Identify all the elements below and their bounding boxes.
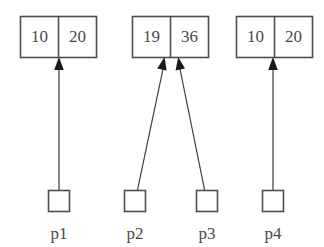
box-1-cell-2-value: 20 bbox=[69, 27, 86, 46]
arrow-p3-head-icon bbox=[176, 57, 185, 71]
pointer-p1-box bbox=[49, 191, 70, 212]
pointer-p2-label: p2 bbox=[127, 224, 144, 243]
arrow-p1-head-icon bbox=[54, 57, 64, 70]
arrow-p3-to-box-2 bbox=[176, 57, 206, 197]
box-3: 10 20 bbox=[237, 17, 313, 58]
box-2: 19 36 bbox=[133, 17, 209, 58]
diagram-canvas: 10 20 19 36 10 20 p1 p2 bbox=[0, 0, 324, 247]
arrow-p1-to-box-1 bbox=[54, 57, 64, 190]
arrow-p4-to-box-3 bbox=[268, 57, 278, 190]
pointer-p2-box bbox=[125, 191, 146, 212]
pointer-p4-label: p4 bbox=[265, 224, 283, 243]
pointer-p1-label: p1 bbox=[51, 224, 68, 243]
box-2-cell-1-value: 19 bbox=[143, 27, 160, 46]
pointer-p2: p2 bbox=[125, 191, 146, 244]
pointer-p1: p1 bbox=[49, 191, 70, 244]
pointer-diagram: 10 20 19 36 10 20 p1 p2 bbox=[0, 0, 324, 247]
box-1-cell-1-value: 10 bbox=[31, 27, 48, 46]
arrow-p2-head-icon bbox=[157, 57, 166, 71]
box-1: 10 20 bbox=[21, 17, 97, 58]
arrow-p2-to-box-2 bbox=[136, 57, 167, 197]
arrow-p2-line bbox=[136, 69, 163, 197]
pointer-p3-box bbox=[197, 191, 218, 212]
pointer-p4-box bbox=[263, 191, 284, 212]
arrow-p4-head-icon bbox=[268, 57, 278, 70]
pointer-p3: p3 bbox=[197, 191, 218, 244]
arrow-p3-line bbox=[180, 69, 206, 197]
pointer-p4: p4 bbox=[263, 191, 284, 244]
pointer-p3-label: p3 bbox=[199, 224, 216, 243]
box-2-cell-2-value: 36 bbox=[181, 27, 198, 46]
box-3-cell-2-value: 20 bbox=[285, 27, 302, 46]
box-3-cell-1-value: 10 bbox=[247, 27, 264, 46]
